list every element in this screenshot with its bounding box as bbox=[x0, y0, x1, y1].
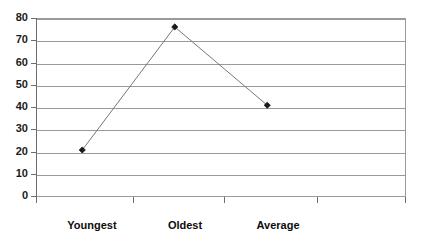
plot-area bbox=[36, 18, 406, 197]
y-axis-label: 60 bbox=[0, 56, 28, 68]
y-axis-label: 80 bbox=[0, 11, 28, 23]
y-axis-label: 70 bbox=[0, 33, 28, 45]
y-axis-label: 50 bbox=[0, 78, 28, 90]
y-axis-label: 30 bbox=[0, 122, 28, 134]
y-axis-label: 40 bbox=[0, 100, 28, 112]
y-axis-label: 10 bbox=[0, 167, 28, 179]
y-axis-tick bbox=[31, 174, 36, 175]
y-axis-label: 20 bbox=[0, 145, 28, 157]
x-axis-tick bbox=[36, 197, 37, 203]
y-axis-tick bbox=[31, 40, 36, 41]
gridline bbox=[37, 130, 405, 131]
gridline bbox=[37, 64, 405, 65]
y-axis-tick bbox=[31, 107, 36, 108]
x-axis-tick bbox=[405, 197, 406, 203]
y-axis-line bbox=[36, 18, 37, 197]
y-axis-tick bbox=[31, 63, 36, 64]
x-axis-label-oldest: Oldest bbox=[168, 219, 202, 231]
gridline bbox=[37, 86, 405, 87]
gridline bbox=[37, 175, 405, 176]
gridline bbox=[37, 19, 405, 20]
x-axis-label-youngest: Youngest bbox=[67, 219, 116, 231]
y-axis-tick bbox=[31, 129, 36, 130]
gridline bbox=[37, 41, 405, 42]
x-axis-tick bbox=[224, 197, 225, 203]
gridline bbox=[37, 153, 405, 154]
x-axis-tick bbox=[317, 197, 318, 203]
x-axis-tick bbox=[133, 197, 134, 203]
y-axis-tick bbox=[31, 18, 36, 19]
x-axis-label-average: Average bbox=[256, 219, 299, 231]
y-axis-tick bbox=[31, 85, 36, 86]
gridline bbox=[37, 108, 405, 109]
y-axis-tick bbox=[31, 152, 36, 153]
y-axis-label: 0 bbox=[0, 189, 28, 201]
line-chart: 80 70 60 50 40 30 20 10 0 Youngest Oldes… bbox=[0, 0, 424, 252]
